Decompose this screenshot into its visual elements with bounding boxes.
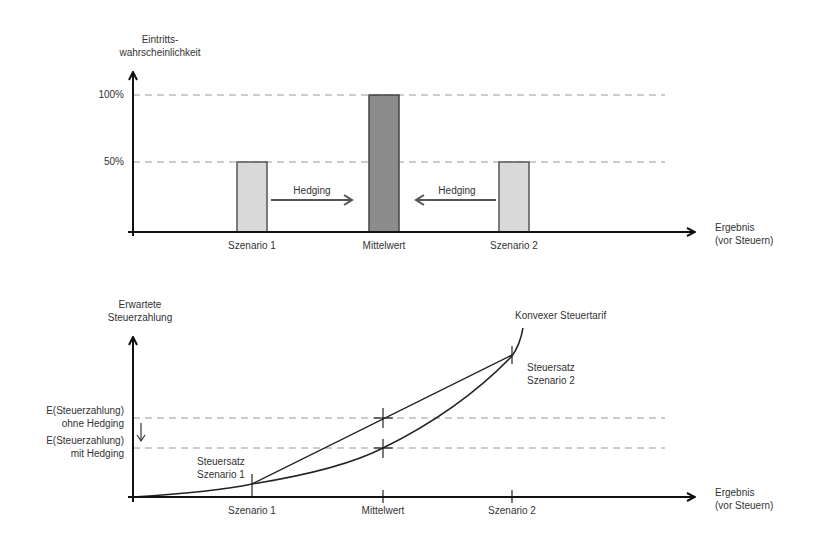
top-y-label-line1: Eintritts- [100,33,220,46]
tick-label-50: 50% [80,155,124,168]
mit-line2: mit Hedging [4,447,124,460]
top-x-mittelwert: Mittelwert [344,239,424,252]
hedging-label-right: Hedging [427,184,487,197]
convex-curve-label: Konvexer Steuertarif [515,309,606,322]
ohne-line1: E(Steuerzahlung) [4,404,124,417]
bottom-y-axis-label: Erwartete Steuerzahlung [95,298,185,324]
tick-label-100: 100% [80,88,124,101]
steuersatz-szenario-1-label: Steuersatz Szenario 1 [197,455,245,481]
top-y-axis-label: Eintritts- wahrscheinlichkeit [100,33,220,59]
ohne-line2: ohne Hedging [4,417,124,430]
probability-chart [128,73,694,236]
bottom-x-mittelwert: Mittelwert [343,504,423,517]
top-x-label-line1: Ergebnis [715,221,773,234]
bar-szenario-1 [237,162,267,232]
bottom-y-label-line2: Steuerzahlung [95,311,185,324]
bar-mittelwert [369,95,399,232]
top-y-label-line2: wahrscheinlichkeit [100,46,220,59]
bottom-y-label-line1: Erwartete [95,298,185,311]
bottom-x-axis-label: Ergebnis (vor Steuern) [715,486,773,512]
bar-szenario-2 [499,162,529,232]
chord-line [252,355,512,484]
rate2-line2: Szenario 2 [527,374,575,387]
e-steuer-mit-hedging-label: E(Steuerzahlung) mit Hedging [4,434,124,460]
steuersatz-szenario-2-label: Steuersatz Szenario 2 [527,361,575,387]
convex-tax-curve [133,328,523,497]
rate1-line2: Szenario 1 [197,468,245,481]
bottom-x-label-line2: (vor Steuern) [715,499,773,512]
top-x-szenario-2: Szenario 2 [474,239,554,252]
hedging-label-left: Hedging [282,184,342,197]
top-x-axis-label: Ergebnis (vor Steuern) [715,221,773,247]
rate2-line1: Steuersatz [527,361,575,374]
bottom-x-label-line1: Ergebnis [715,486,773,499]
top-x-label-line2: (vor Steuern) [715,234,773,247]
rate1-line1: Steuersatz [197,455,245,468]
mit-line1: E(Steuerzahlung) [4,434,124,447]
bottom-x-szenario-2: Szenario 2 [472,504,552,517]
top-x-szenario-1: Szenario 1 [212,239,292,252]
e-steuer-ohne-hedging-label: E(Steuerzahlung) ohne Hedging [4,404,124,430]
diagram-canvas [0,0,820,556]
bottom-x-szenario-1: Szenario 1 [212,504,292,517]
